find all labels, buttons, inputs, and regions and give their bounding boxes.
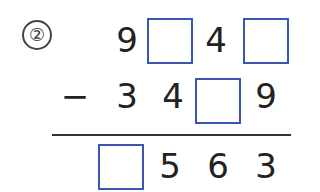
subtrahend-digit-4: 9 <box>251 76 281 116</box>
difference-digit-2: 5 <box>155 146 185 186</box>
answer-box-minuend-4[interactable] <box>243 18 289 64</box>
sum-line <box>52 134 291 136</box>
minus-sign: − <box>60 76 90 116</box>
difference-digit-4: 3 <box>251 146 281 186</box>
minuend-digit-3: 4 <box>201 20 231 60</box>
answer-box-subtrahend-3[interactable] <box>195 78 241 124</box>
minuend-digit-1: 9 <box>112 20 142 60</box>
problem-number: ② <box>22 20 52 50</box>
answer-box-minuend-2[interactable] <box>147 18 193 64</box>
answer-box-difference-1[interactable] <box>98 144 144 190</box>
difference-digit-3: 6 <box>203 146 233 186</box>
subtrahend-digit-1: 3 <box>112 76 142 116</box>
subtrahend-digit-2: 4 <box>158 76 188 116</box>
